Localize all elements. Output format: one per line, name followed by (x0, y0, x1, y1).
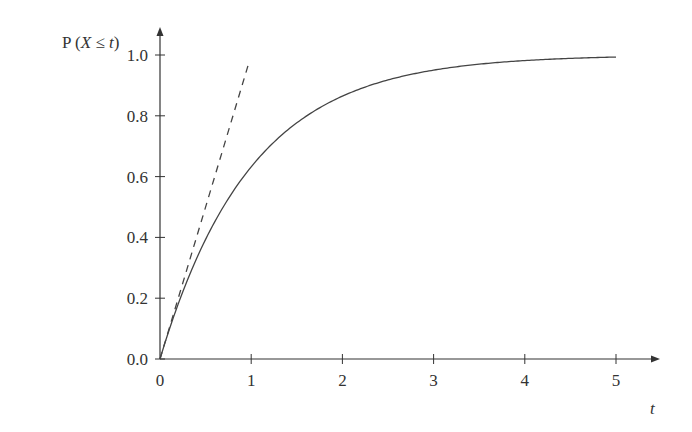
series (160, 57, 616, 359)
x-tick-label: 2 (338, 371, 347, 390)
x-axis-label: t (650, 399, 656, 418)
y-tick-label: 1.0 (127, 46, 148, 65)
x-tick-label: 4 (521, 371, 530, 390)
chart: 0123450.00.20.40.60.81.0 P (X ≤ t) t (0, 0, 692, 432)
tangent-dashed-line (160, 61, 249, 359)
y-tick-label: 0.6 (127, 168, 148, 187)
y-tick-label: 0.4 (127, 228, 149, 247)
y-tick-label: 0.0 (127, 350, 148, 369)
y-axis-label: P (X ≤ t) (62, 33, 119, 52)
y-axis-arrow-icon (157, 27, 164, 36)
cdf-curve (160, 57, 616, 359)
ticks: 0123450.00.20.40.60.81.0 (127, 46, 621, 390)
x-axis-arrow-icon (651, 356, 660, 363)
y-tick-label: 0.2 (127, 289, 148, 308)
x-tick-label: 0 (156, 371, 165, 390)
axes (157, 27, 661, 363)
y-tick-label: 0.8 (127, 107, 148, 126)
x-tick-label: 3 (429, 371, 438, 390)
x-tick-label: 5 (612, 371, 621, 390)
x-tick-label: 1 (247, 371, 256, 390)
